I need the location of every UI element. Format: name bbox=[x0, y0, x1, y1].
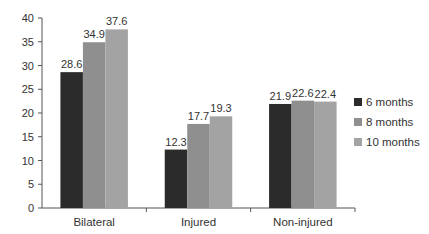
x-category-label: Bilateral bbox=[73, 216, 115, 228]
bar-group-non-injured: 21.922.622.4 bbox=[269, 87, 337, 208]
bar-value-label: 17.7 bbox=[188, 110, 209, 122]
x-category-label: Non-injured bbox=[273, 216, 332, 228]
y-tick-label: 40 bbox=[22, 12, 34, 24]
bar-value-label: 12.3 bbox=[165, 136, 186, 148]
bar-value-label: 22.4 bbox=[315, 88, 336, 100]
legend-swatch bbox=[354, 138, 362, 146]
y-tick-label: 5 bbox=[28, 178, 34, 190]
legend: 6 months8 months10 months bbox=[354, 96, 420, 148]
legend-label: 6 months bbox=[366, 96, 414, 108]
bar-value-label: 19.3 bbox=[210, 102, 231, 114]
bar bbox=[187, 124, 210, 208]
bar bbox=[165, 150, 188, 208]
grouped-bar-chart: 051015202530354028.634.937.6Bilateral12.… bbox=[0, 0, 429, 234]
bar bbox=[105, 29, 128, 208]
y-tick-label: 25 bbox=[22, 83, 34, 95]
bar-value-label: 28.6 bbox=[61, 58, 82, 70]
legend-label: 8 months bbox=[366, 116, 414, 128]
bar-value-label: 34.9 bbox=[83, 28, 104, 40]
bar-group-injured: 12.317.719.3 bbox=[165, 102, 233, 208]
x-category-label: Injured bbox=[181, 216, 216, 228]
y-tick-label: 20 bbox=[22, 107, 34, 119]
y-tick-label: 30 bbox=[22, 60, 34, 72]
bar bbox=[269, 104, 292, 208]
legend-label: 10 months bbox=[366, 136, 420, 148]
legend-swatch bbox=[354, 118, 362, 126]
bar bbox=[60, 72, 83, 208]
bar-value-label: 21.9 bbox=[270, 90, 291, 102]
y-tick-label: 0 bbox=[28, 202, 34, 214]
bar bbox=[292, 101, 315, 208]
bar bbox=[314, 102, 337, 208]
y-tick-label: 10 bbox=[22, 155, 34, 167]
bar-value-label: 37.6 bbox=[106, 15, 127, 27]
bar-value-label: 22.6 bbox=[292, 87, 313, 99]
legend-swatch bbox=[354, 98, 362, 106]
bar-group-bilateral: 28.634.937.6 bbox=[60, 15, 128, 208]
bar bbox=[83, 42, 106, 208]
y-tick-label: 15 bbox=[22, 131, 34, 143]
y-tick-label: 35 bbox=[22, 36, 34, 48]
bar bbox=[210, 116, 233, 208]
